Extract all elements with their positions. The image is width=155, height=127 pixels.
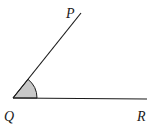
- angle-diagram: P Q R: [0, 0, 155, 127]
- label-q: Q: [4, 109, 14, 124]
- label-p: P: [65, 6, 75, 21]
- ray-qr: [13, 98, 147, 99]
- label-r: R: [136, 109, 146, 124]
- ray-qp: [13, 13, 81, 98]
